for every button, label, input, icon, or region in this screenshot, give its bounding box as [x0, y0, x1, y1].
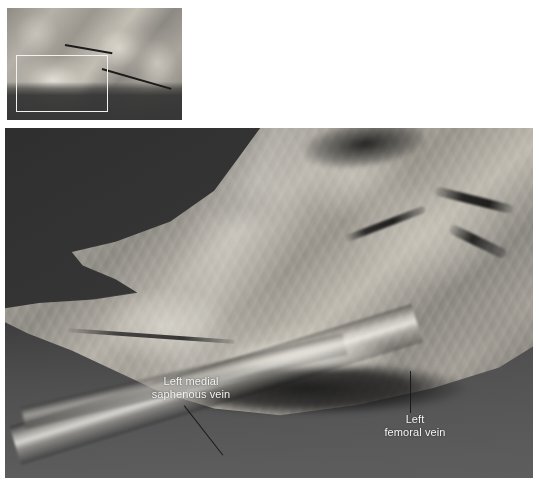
annotation-label-saphenous: Left medial saphenous vein: [148, 375, 234, 401]
overview-thumbnail[interactable]: [7, 8, 182, 120]
magnified-dissection-view[interactable]: Left medial saphenous vein Left femoral …: [5, 128, 533, 478]
annotation-label-femoral: Left femoral vein: [377, 413, 453, 439]
leader-line-femoral: [410, 371, 411, 413]
region-of-interest-rectangle[interactable]: [16, 55, 108, 112]
